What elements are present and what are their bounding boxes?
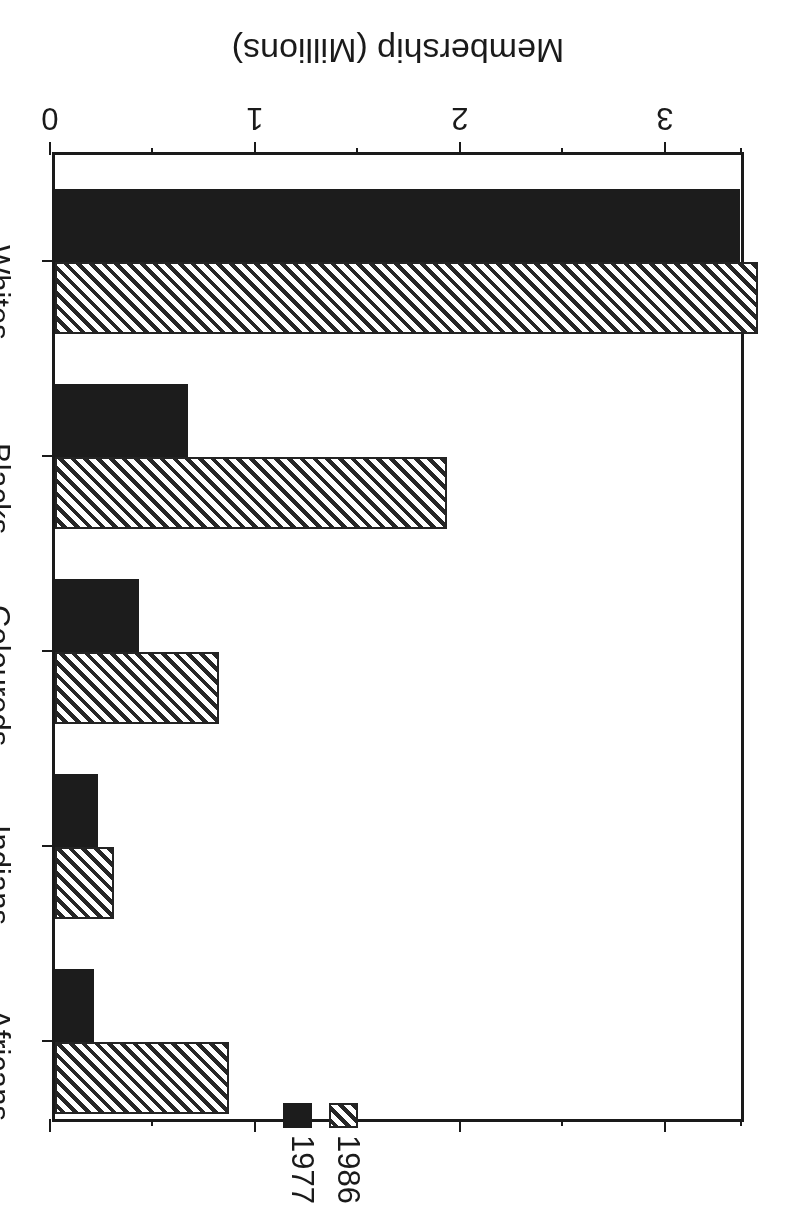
bar-1977-whites: [55, 189, 740, 262]
axis-tick-top-major-2: [459, 1119, 461, 1132]
bar-1977-indians: [55, 774, 98, 847]
plot-area: 0 1 2 3: [52, 152, 744, 1122]
category-tick-africans: [42, 1040, 55, 1042]
category-tick-whites: [42, 260, 55, 262]
legend: 1977 1986: [198, 1065, 378, 1185]
category-tick-indians: [42, 845, 55, 847]
axis-tick-top-minor-2-5: [561, 1119, 563, 1126]
axis-tick-label-0: 0: [20, 103, 80, 134]
category-tick-blacks: [42, 455, 55, 457]
legend-swatch-1986: [329, 1103, 358, 1128]
axis-tick-major-0: [49, 142, 51, 155]
axis-tick-minor-3-5: [740, 148, 742, 155]
axis-tick-top-minor-0-5: [151, 1119, 153, 1126]
category-label-coloureds: Coloureds: [0, 605, 14, 746]
axis-tick-top-minor-3-5: [740, 1119, 742, 1126]
category-label-indians: Indians: [0, 825, 14, 925]
bar-1977-coloureds: [55, 579, 139, 652]
axis-tick-minor-2-5: [561, 148, 563, 155]
axis-tick-top-major-3: [664, 1119, 666, 1132]
bar-1986-whites: [55, 262, 758, 334]
value-axis-title: Membership (Millions): [52, 31, 744, 71]
category-tick-coloureds: [42, 650, 55, 652]
bar-1977-africans: [55, 969, 94, 1042]
legend-label-1977: 1977: [287, 1135, 318, 1204]
bar-1977-blacks: [55, 384, 188, 457]
category-label-blacks: Blacks: [0, 443, 14, 534]
category-label-africans: Africans: [0, 1009, 14, 1121]
legend-swatch-1977: [283, 1103, 312, 1128]
category-label-whites: Whites: [0, 245, 14, 340]
axis-tick-major-2: [459, 142, 461, 155]
axis-tick-top-major-0: [49, 1119, 51, 1132]
axis-tick-label-1: 1: [225, 103, 285, 134]
legend-label-1986: 1986: [333, 1135, 364, 1204]
bar-chart-figure: 0 1 2 3 Africans Indians Coloureds Black…: [0, 0, 796, 1205]
axis-tick-major-1: [254, 142, 256, 155]
bar-1986-blacks: [55, 457, 447, 529]
bar-1986-coloureds: [55, 652, 219, 724]
axis-tick-label-3: 3: [635, 103, 695, 134]
axis-tick-minor-0-5: [151, 148, 153, 155]
axis-tick-major-3: [664, 142, 666, 155]
axis-tick-label-2: 2: [430, 103, 490, 134]
bar-1986-indians: [55, 847, 114, 919]
axis-tick-minor-1-5: [356, 148, 358, 155]
